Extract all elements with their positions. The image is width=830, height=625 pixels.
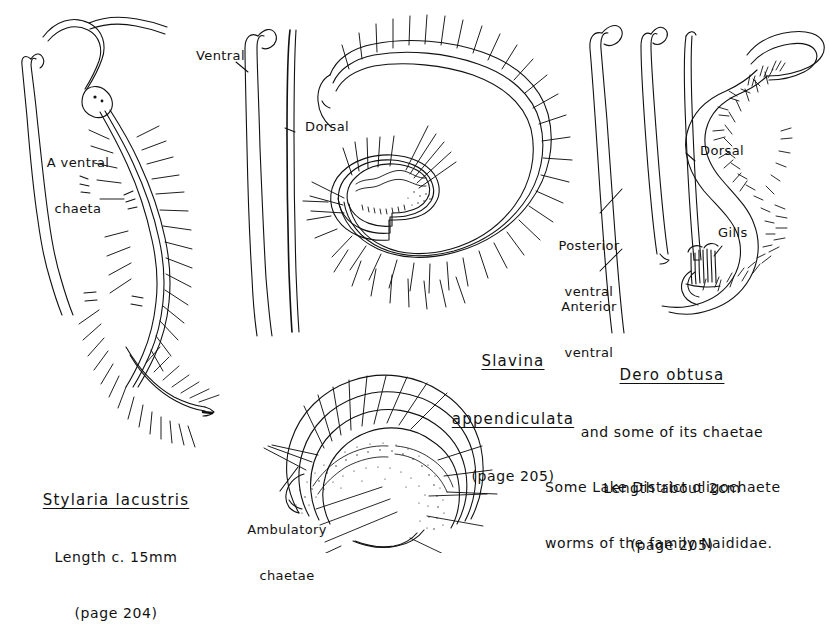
annotation-dorsal-slavina: Dorsal [305, 119, 349, 134]
length-note-stylaria: Length c. 15mm [43, 548, 190, 567]
annotation-a-ventral-chaeta: A ventral chaeta [47, 124, 110, 231]
annotation-line-2: chaetae [247, 568, 327, 583]
caption-stylaria: Stylaria lacustris Length c. 15mm (page … [43, 452, 190, 625]
species-name-slavina-line2: appendiculata [452, 409, 574, 429]
caption-slavina: Slavina appendiculata (page 205) [452, 313, 574, 505]
plate-caption-line-2: worms of the family Naididae. [545, 534, 781, 553]
species-name-dero: Dero obtusa [581, 365, 764, 385]
annotation-line-1: A ventral [47, 155, 110, 170]
species-name-slavina-line1: Slavina [452, 351, 574, 371]
subtitle-dero: and some of its chaetae [581, 423, 764, 442]
annotation-line-1: Posterior [558, 238, 619, 253]
annotation-gills: Gills [718, 225, 748, 240]
annotation-ventral: Ventral [196, 48, 245, 63]
annotation-line-2: chaeta [47, 201, 110, 216]
plate-caption: Some Lake District oligochaete worms of … [660, 440, 781, 572]
plate-caption-line-1: Some Lake District oligochaete [545, 478, 781, 497]
page-note-stylaria: (page 204) [43, 604, 190, 623]
annotation-dorsal-dero: Dorsal [700, 143, 744, 158]
annotation-line-1: Anterior [561, 299, 617, 314]
annotation-ambulatory-chaetae: Ambulatory chaetae [247, 491, 327, 598]
annotation-line-1: Ambulatory [247, 522, 327, 537]
species-name-stylaria: Stylaria lacustris [43, 490, 190, 510]
